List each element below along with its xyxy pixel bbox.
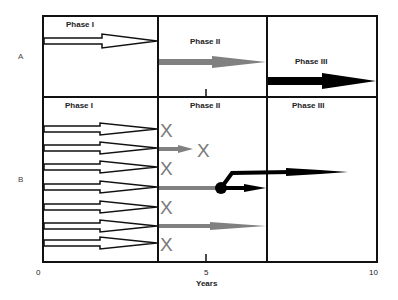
row-b-full-gray-arrow (159, 222, 266, 230)
row-b-phase-1-arrows (44, 123, 157, 249)
row-label-b: B (18, 175, 23, 184)
row-b-phase-3-label: Phase III (292, 101, 324, 110)
x-tick-5: 5 (204, 268, 209, 277)
row-b-phase-1-label: Phase I (65, 101, 93, 110)
row-b-branch-arrow (159, 168, 348, 194)
row-b-short-gray-arrow (159, 145, 193, 153)
row-a-phase-1-label: Phase I (66, 20, 94, 29)
x-axis-label: Years (196, 279, 218, 288)
x-tick-10: 10 (369, 268, 378, 277)
row-b-phase-2-label: Phase II (190, 101, 220, 110)
row-a-phase-2-label: Phase II (190, 37, 220, 46)
row-a-phase-1-arrow (44, 34, 157, 48)
failure-x-mark-2: X (197, 140, 210, 161)
failure-x-mark-1: X (160, 120, 173, 141)
x-tick-0: 0 (36, 268, 41, 277)
failure-x-mark-4: X (160, 197, 173, 218)
row-a-phase-3-label: Phase III (295, 57, 327, 66)
row-a-phase-3-arrow (268, 73, 376, 89)
drug-development-phase-diagram: A B Phase I Phase II Phase III Phase I P… (0, 0, 398, 300)
row-a-phase-2-arrow (159, 56, 266, 68)
row-label-a: A (18, 52, 24, 61)
failure-x-mark-3: X (160, 158, 173, 179)
failure-x-mark-5: X (160, 234, 173, 255)
